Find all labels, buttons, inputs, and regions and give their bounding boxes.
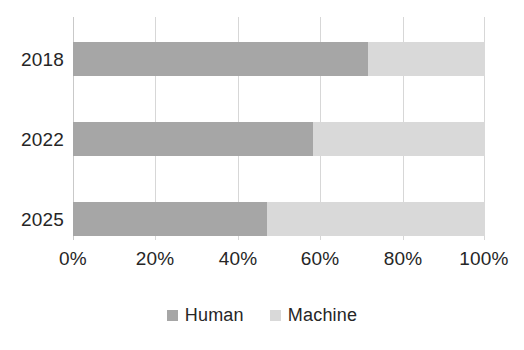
x-tick-label-80: 80% (384, 248, 423, 270)
legend-swatch-machine-icon (270, 310, 281, 321)
chart-legend: Human Machine (0, 305, 524, 326)
stacked-bar-chart: 2018 2022 2025 0% 20% 40% 60% 80% 100% H… (0, 0, 524, 350)
legend-item-human[interactable]: Human (167, 305, 244, 326)
x-axis-tick-labels: 0% 20% 40% 60% 80% 100% (73, 248, 485, 274)
bar-segment-machine-2025[interactable] (267, 202, 485, 236)
bar-segment-human-2018[interactable] (73, 42, 368, 76)
bar-segment-human-2022[interactable] (73, 122, 313, 156)
bar-segment-machine-2022[interactable] (313, 122, 485, 156)
bar-row-2022[interactable] (73, 122, 485, 156)
x-tick-label-100: 100% (459, 248, 508, 270)
y-axis-label-2022: 2022 (0, 129, 64, 151)
bar-row-2018[interactable] (73, 42, 485, 76)
x-tick-label-40: 40% (219, 248, 258, 270)
x-tick-label-60: 60% (301, 248, 340, 270)
legend-swatch-human-icon (167, 310, 178, 321)
x-tick-label-20: 20% (136, 248, 175, 270)
bar-row-2025[interactable] (73, 202, 485, 236)
legend-label-human: Human (185, 305, 244, 326)
plot-area (73, 17, 485, 240)
bar-segment-human-2025[interactable] (73, 202, 267, 236)
legend-item-machine[interactable]: Machine (270, 305, 357, 326)
y-axis-label-2025: 2025 (0, 209, 64, 231)
x-tick-label-0: 0% (59, 248, 87, 270)
y-axis-label-2018: 2018 (0, 49, 64, 71)
legend-label-machine: Machine (288, 305, 357, 326)
bar-segment-machine-2018[interactable] (368, 42, 485, 76)
